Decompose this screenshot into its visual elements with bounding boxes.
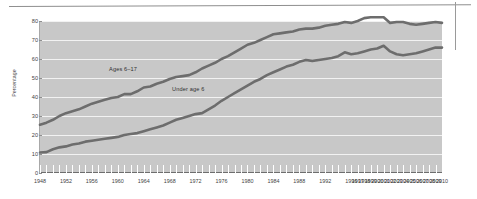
x-tick-mark bbox=[53, 165, 54, 173]
y-tick-label: 0 bbox=[24, 170, 38, 176]
y-tick-mark bbox=[39, 78, 42, 79]
x-tick-mark bbox=[98, 165, 99, 173]
x-tick-mark bbox=[293, 165, 294, 173]
x-tick-mark bbox=[72, 165, 73, 173]
y-tick-label: 40 bbox=[24, 94, 38, 100]
x-tick-mark bbox=[397, 165, 398, 173]
x-tick-mark bbox=[312, 165, 313, 173]
x-tick-mark bbox=[209, 165, 210, 173]
x-tick-mark bbox=[436, 165, 437, 173]
y-tick-mark bbox=[39, 116, 42, 117]
gridline bbox=[40, 40, 442, 41]
x-tick-mark bbox=[286, 165, 287, 173]
x-tick-label: 2010 bbox=[427, 178, 457, 185]
gridline bbox=[40, 21, 442, 22]
x-tick-mark bbox=[260, 165, 261, 173]
series-label-ages-6-17: Ages 6–17 bbox=[109, 66, 137, 72]
x-tick-mark bbox=[131, 165, 132, 173]
x-tick-mark bbox=[267, 165, 268, 173]
x-tick-mark bbox=[79, 165, 80, 173]
x-tick-mark bbox=[390, 165, 391, 173]
gridline bbox=[40, 59, 442, 60]
y-tick-mark bbox=[39, 40, 42, 41]
x-tick-mark bbox=[247, 165, 248, 173]
x-tick-mark bbox=[429, 165, 430, 173]
x-tick-mark bbox=[364, 165, 365, 173]
x-tick-mark bbox=[410, 165, 411, 173]
y-tick-mark bbox=[39, 97, 42, 98]
x-tick-mark bbox=[384, 165, 385, 173]
gridline bbox=[40, 154, 442, 155]
y-tick-mark bbox=[39, 59, 42, 60]
series-label-under-age-6: Under age 6 bbox=[172, 86, 204, 92]
y-tick-mark bbox=[39, 135, 42, 136]
x-tick-mark bbox=[59, 165, 60, 173]
x-tick-mark bbox=[306, 165, 307, 173]
y-tick-label: 80 bbox=[24, 18, 38, 24]
x-tick-mark bbox=[319, 165, 320, 173]
x-tick-mark bbox=[377, 165, 378, 173]
x-tick-mark bbox=[442, 165, 443, 173]
x-tick-mark bbox=[273, 165, 274, 173]
x-tick-mark bbox=[222, 165, 223, 173]
x-tick-mark bbox=[345, 165, 346, 173]
gridline bbox=[40, 97, 442, 98]
x-tick-mark bbox=[85, 165, 86, 173]
gridline bbox=[40, 135, 442, 136]
y-tick-label: 10 bbox=[24, 151, 38, 157]
x-tick-mark bbox=[241, 165, 242, 173]
x-tick-mark bbox=[215, 165, 216, 173]
x-tick-mark bbox=[235, 165, 236, 173]
x-tick-mark bbox=[66, 165, 67, 173]
x-tick-mark bbox=[170, 165, 171, 173]
x-tick-mark bbox=[280, 165, 281, 173]
x-tick-mark bbox=[423, 165, 424, 173]
y-tick-mark bbox=[39, 173, 42, 174]
x-tick-mark bbox=[228, 165, 229, 173]
x-tick-mark bbox=[196, 165, 197, 173]
x-tick-mark bbox=[157, 165, 158, 173]
x-tick-mark bbox=[137, 165, 138, 173]
y-tick-label: 70 bbox=[24, 37, 38, 43]
x-tick-mark bbox=[202, 165, 203, 173]
x-tick-mark bbox=[111, 165, 112, 173]
x-tick-mark bbox=[92, 165, 93, 173]
x-tick-mark bbox=[325, 165, 326, 173]
plot-area bbox=[40, 21, 442, 173]
y-tick-label: 60 bbox=[24, 56, 38, 62]
gridline bbox=[40, 78, 442, 79]
x-tick-mark bbox=[403, 165, 404, 173]
gridline bbox=[40, 116, 442, 117]
x-tick-mark bbox=[183, 165, 184, 173]
y-axis: 01020304050607080 bbox=[18, 0, 38, 199]
x-tick-mark bbox=[40, 165, 41, 173]
x-tick-mark bbox=[371, 165, 372, 173]
x-tick-mark bbox=[254, 165, 255, 173]
x-tick-mark bbox=[176, 165, 177, 173]
x-tick-mark bbox=[163, 165, 164, 173]
x-tick-mark bbox=[332, 165, 333, 173]
y-axis-title: Percentage bbox=[11, 53, 17, 113]
y-tick-label: 30 bbox=[24, 113, 38, 119]
x-tick-mark bbox=[124, 165, 125, 173]
y-tick-label: 50 bbox=[24, 75, 38, 81]
y-tick-mark bbox=[39, 154, 42, 155]
x-tick-mark bbox=[358, 165, 359, 173]
x-tick-mark bbox=[150, 165, 151, 173]
y-tick-mark bbox=[39, 21, 42, 22]
x-tick-mark bbox=[189, 165, 190, 173]
x-tick-mark bbox=[118, 165, 119, 173]
x-tick-mark bbox=[144, 165, 145, 173]
x-tick-mark bbox=[46, 165, 47, 173]
x-tick-mark bbox=[338, 165, 339, 173]
y-tick-label: 20 bbox=[24, 132, 38, 138]
x-tick-mark bbox=[105, 165, 106, 173]
x-tick-mark bbox=[351, 165, 352, 173]
x-tick-mark bbox=[299, 165, 300, 173]
x-tick-mark bbox=[416, 165, 417, 173]
line-chart-figure: 01020304050607080 Percentage Ages 6–17 U… bbox=[0, 0, 477, 199]
